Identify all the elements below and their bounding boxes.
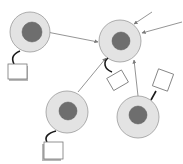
cell-node-a	[8, 12, 50, 81]
edge-c-to-b	[78, 58, 106, 92]
edge-a-to-b	[47, 32, 98, 42]
edge-external-2-to-b	[142, 22, 182, 33]
cell-nucleus	[112, 32, 130, 50]
attached-box	[8, 64, 27, 79]
tether	[151, 91, 156, 100]
attached-box	[107, 70, 129, 91]
attached-box	[152, 69, 173, 91]
edge-d-to-b	[134, 60, 138, 96]
cell-nucleus	[129, 106, 147, 124]
edge-external-1-to-b	[134, 12, 152, 24]
attached-box	[44, 142, 63, 159]
cell-node-c	[42, 91, 88, 161]
cell-node-b	[99, 20, 141, 91]
tether	[13, 51, 20, 64]
cell-network-diagram	[0, 0, 183, 164]
cell-nucleus	[59, 102, 77, 120]
tether	[46, 131, 56, 142]
cell-nucleus	[22, 22, 42, 42]
